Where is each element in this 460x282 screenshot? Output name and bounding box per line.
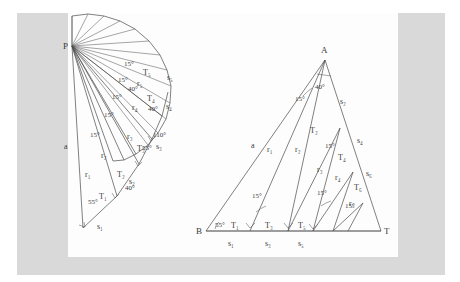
- label-T4-right: T₄: [338, 153, 346, 162]
- label-s6-right: s₆: [366, 169, 372, 178]
- angle-55-left-upper: 55°: [142, 144, 152, 152]
- angle-40-right: 40°: [315, 83, 325, 91]
- label-r1-right: r₁: [267, 145, 273, 154]
- label-T2-right: T₂: [310, 126, 318, 135]
- label-T: T: [384, 226, 390, 236]
- label-A: A: [321, 45, 328, 55]
- label-s3-right: s₃: [265, 239, 271, 248]
- angle-15-left-e: 15°: [124, 60, 134, 68]
- label-r3-left: r₃: [127, 132, 133, 141]
- label-s2-right: s₂: [340, 97, 346, 106]
- side-BA: [206, 60, 325, 231]
- angle-15-left-b: 15°: [104, 111, 114, 119]
- angle-15-left-a: 15°: [90, 131, 100, 139]
- label-T5-right: T₅: [298, 221, 306, 230]
- angle-55-right: 55°: [215, 221, 225, 229]
- label-r4-right: r₄: [335, 173, 341, 182]
- angle-15-right-a: 15°: [295, 95, 305, 103]
- label-s4-right: s₄: [357, 136, 363, 145]
- angle-15-right-e: 15°: [345, 202, 355, 210]
- label-r1-left: r₁: [85, 170, 91, 179]
- label-a-left: a: [64, 142, 68, 151]
- label-s5-left: s₅: [167, 73, 173, 82]
- right-angle-marks: [215, 74, 331, 229]
- left-figure: P a r₁ r₂ r₃ r₄ r₅ T₁ T₂ T₃ T₄ T₅ s₁ s₂ …: [63, 14, 173, 231]
- label-r5-left: r₅: [137, 79, 143, 88]
- label-T5-left: T₅: [143, 68, 151, 77]
- label-T4-left: T₄: [147, 94, 155, 103]
- label-T1-left: T₁: [99, 192, 107, 201]
- label-s5-right: s₅: [298, 239, 304, 248]
- label-P: P: [63, 41, 68, 51]
- label-r4-left: r₄: [132, 103, 138, 112]
- label-s1-right: s₁: [228, 239, 234, 248]
- scanned-page-canvas: P a r₁ r₂ r₃ r₄ r₅ T₁ T₂ T₃ T₄ T₅ s₁ s₂ …: [0, 0, 460, 282]
- angle-15-left-c: 15°: [112, 93, 122, 101]
- angle-55-left-bottom: 55°: [88, 198, 98, 206]
- label-T3-right: T₃: [265, 221, 273, 230]
- angle-15-left-d: 15°: [118, 76, 128, 84]
- right-figure: A B T a r₁ r₂ r₃ r₄ r₅ T₁ T₂ T₃ T₄ T₅ T₆…: [196, 45, 390, 248]
- angle-110-left: 110°: [153, 131, 166, 139]
- label-r2-right: r₂: [295, 145, 301, 154]
- label-B: B: [196, 226, 202, 236]
- angle-40-left-a: 40°: [148, 105, 158, 113]
- label-s3-left: s₃: [156, 142, 162, 151]
- label-s1-left: s₁: [97, 222, 103, 231]
- label-a-right: a: [251, 141, 255, 150]
- label-T6-right: T₆: [354, 183, 362, 192]
- angle-40-left-lower: 40°: [125, 184, 135, 192]
- angle-15-right-b: 15°: [252, 192, 262, 200]
- label-T1-right: T₁: [231, 221, 239, 230]
- label-s4-left: s₄: [166, 102, 172, 111]
- angle-15-right-c: 15°: [325, 142, 335, 150]
- geometry-figure-svg: P a r₁ r₂ r₃ r₄ r₅ T₁ T₂ T₃ T₄ T₅ s₁ s₂ …: [0, 0, 460, 282]
- label-r3-right: r₃: [317, 165, 323, 174]
- angle-15-right-d: 15°: [317, 189, 327, 197]
- angle-40-left-b: 40°: [128, 85, 138, 93]
- label-T2-left: T₂: [117, 170, 125, 179]
- label-r2-left: r₂: [101, 151, 107, 160]
